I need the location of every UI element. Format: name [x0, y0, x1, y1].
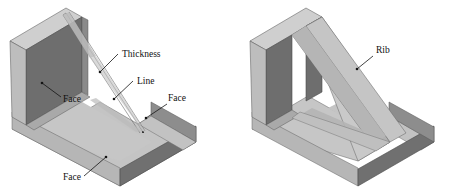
face-bottom-label: Face [63, 172, 81, 182]
left-part-drawing: Thickness Line Face Face Face [10, 8, 196, 186]
face-right-label: Face [168, 93, 186, 103]
annotation-rib: Rib [356, 45, 390, 70]
thickness-label: Thickness [122, 49, 161, 59]
annotation-thickness: Thickness [99, 49, 161, 73]
isometric-drawings-canvas: Thickness Line Face Face Face [0, 0, 464, 191]
right-part-drawing: Rib [250, 8, 434, 186]
r-wall-left-side-face [250, 41, 266, 125]
r-wall-inner-face-left [266, 35, 292, 125]
rib-label: Rib [376, 45, 390, 55]
line-label: Line [137, 76, 154, 86]
wall-left-side-face [10, 41, 26, 125]
face-left-label: Face [63, 94, 81, 104]
wall-right-edge-strip [82, 17, 88, 95]
technical-illustration-figure: Thickness Line Face Face Face [0, 0, 464, 191]
